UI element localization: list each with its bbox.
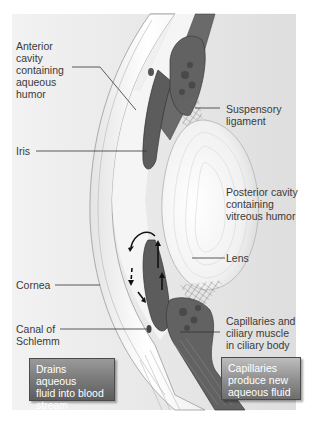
canal-of-schlemm-top bbox=[148, 68, 154, 76]
label-capillaries-ciliary-muscle: Capillaries and ciliary muscle in ciliar… bbox=[226, 315, 295, 351]
label-cornea: Cornea bbox=[16, 279, 50, 291]
label-suspensory-ligament: Suspensory ligament bbox=[226, 103, 281, 127]
callout-drains-aqueous: Drains aqueous fluid into blood stream bbox=[29, 358, 115, 401]
label-canal-of-schlemm: Canal of Schlemm bbox=[16, 323, 60, 347]
label-lens: Lens bbox=[226, 252, 249, 264]
label-anterior-cavity: Anterior cavity containing aqueous humor bbox=[16, 40, 64, 100]
label-posterior-cavity: Posterior cavity containing vitreous hum… bbox=[226, 186, 298, 222]
label-iris: Iris bbox=[16, 145, 30, 157]
callout-capillaries-produce: Capillaries produce new aqueous fluid bbox=[221, 357, 301, 400]
canal-of-schlemm-bottom bbox=[147, 325, 152, 333]
